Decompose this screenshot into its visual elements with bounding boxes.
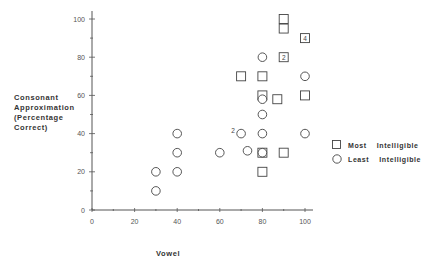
y-label-line: Consonant [14,93,75,103]
circle-marker [258,110,267,119]
x-tick-label: 20 [131,218,139,225]
legend-item-most: Most Intelligible [332,138,421,152]
x-label-line: Vowel [156,249,250,259]
x-tick-label: 60 [216,218,224,225]
x-axis-label: Vowel Approximation (Percentage Correct) [156,229,250,268]
point-count-label: 4 [303,35,307,42]
legend-label: Intelligible [377,142,419,149]
circle-marker [301,72,310,81]
square-marker [258,167,267,176]
circle-marker [216,148,225,157]
circle-marker [258,129,267,138]
y-tick-label: 100 [73,16,85,23]
square-marker [237,72,246,81]
square-marker [279,24,288,33]
x-tick-label: 0 [90,218,94,225]
legend-label: Most [348,142,367,149]
y-tick-label: 20 [77,168,85,175]
y-tick-label: 40 [77,130,85,137]
circle-marker [243,146,252,155]
y-tick-label: 60 [77,92,85,99]
circle-marker [152,187,161,196]
y-axis-label: Consonant Approximation (Percentage Corr… [14,93,75,133]
legend-item-least: Least Intelligible [332,152,421,166]
square-marker [273,95,282,104]
circle-marker [258,53,267,62]
circle-marker [173,129,182,138]
point-count-label: 2 [282,54,286,61]
y-tick-label: 0 [81,207,85,214]
x-tick-label: 80 [259,218,267,225]
square-marker-icon [332,140,342,150]
square-marker [258,72,267,81]
circle-marker-icon [332,154,342,164]
legend-label: Intelligible [379,156,421,163]
point-count-label: 2 [231,127,235,134]
circle-marker [173,168,182,177]
x-tick-label: 100 [299,218,311,225]
square-marker [301,91,310,100]
circle-marker [173,148,182,157]
y-label-line: (Percentage [14,113,75,123]
y-label-line: Correct) [14,123,75,133]
y-tick-label: 80 [77,54,85,61]
y-label-line: Approximation [14,103,75,113]
square-marker [279,15,288,24]
legend-label: Least [348,156,369,163]
circle-marker [258,95,267,104]
scatter-plot: 020406080100020406080100422 [0,0,432,268]
circle-marker [301,129,310,138]
legend: Most Intelligible Least Intelligible [332,138,421,166]
circle-marker [152,168,161,177]
circle-marker [237,129,246,138]
square-marker [279,148,288,157]
x-tick-label: 40 [173,218,181,225]
circle-marker [258,148,267,157]
